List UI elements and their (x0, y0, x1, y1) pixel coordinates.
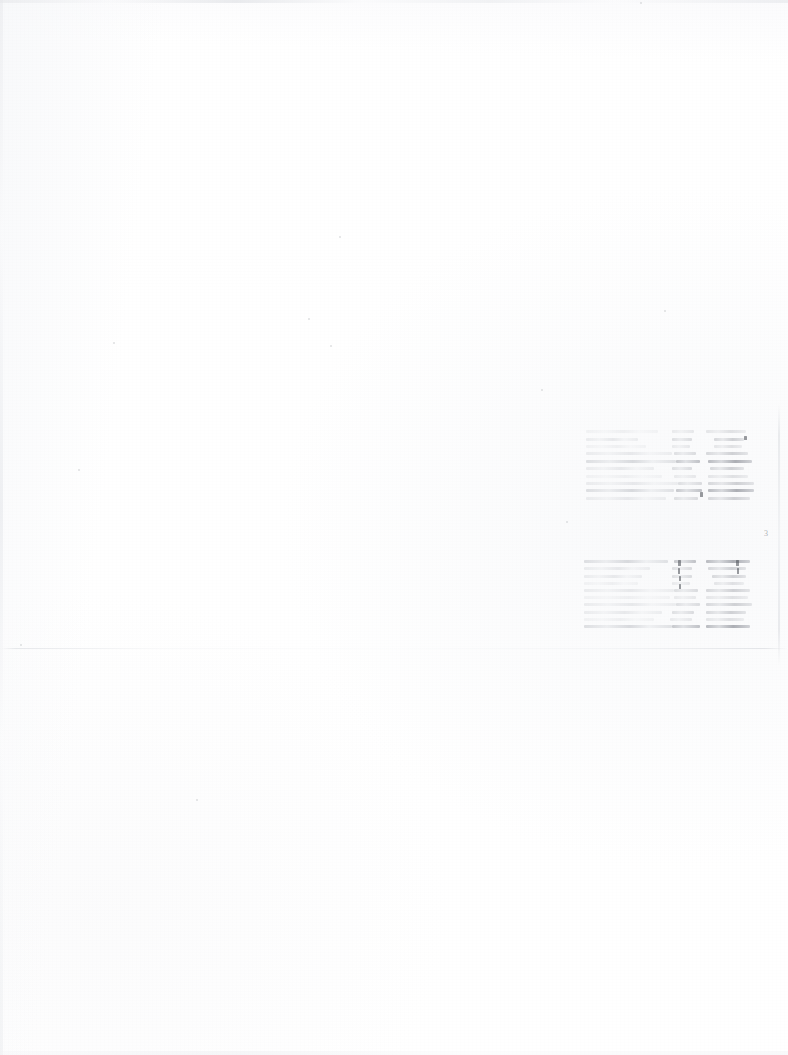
table-cell-label (584, 589, 674, 592)
scan-edge-bottom (0, 1051, 788, 1055)
table-cell-value-b (706, 611, 746, 614)
lower-faded-table (584, 558, 756, 630)
table-cell-value-b (706, 618, 744, 621)
table-cell-value-b (706, 560, 750, 563)
table-row (584, 616, 756, 623)
table-cell-value-b (708, 482, 754, 485)
table-cell-value-a (678, 482, 702, 485)
table-row (584, 558, 756, 565)
table-cell-label (584, 603, 676, 606)
table-cell-value-b (714, 582, 744, 585)
table-row (584, 565, 756, 572)
table-cell-value-a (676, 489, 702, 492)
table-row (584, 608, 756, 615)
table-cell-value-b (708, 567, 746, 570)
table-cell-label (584, 596, 670, 599)
paper-speck (196, 799, 198, 801)
table-cell-value-a (672, 438, 692, 441)
table-cell-value-a (674, 475, 696, 478)
table-row (586, 428, 756, 435)
table-cell-label (586, 438, 638, 441)
table-row (584, 623, 756, 630)
ink-fleck (678, 560, 681, 566)
table-row (586, 480, 756, 487)
table-cell-value-b (712, 575, 746, 578)
table-cell-value-a (676, 603, 700, 606)
table-row (586, 487, 756, 494)
scan-edge-right (778, 404, 780, 666)
table-cell-value-a (672, 567, 692, 570)
table-cell-label (586, 452, 672, 455)
page-number-mark: 3 (764, 530, 768, 538)
table-cell-label (584, 625, 672, 628)
table-cell-value-b (706, 625, 750, 628)
table-cell-value-b (708, 475, 748, 478)
upper-faded-table (586, 428, 756, 502)
table-cell-value-a (672, 582, 690, 585)
table-cell-value-a (672, 467, 692, 470)
ink-fleck (679, 584, 681, 589)
table-cell-label (586, 489, 674, 492)
paper-speck (78, 469, 80, 471)
table-cell-label (586, 460, 676, 463)
table-cell-value-a (672, 575, 692, 578)
paper-grain (0, 0, 788, 1055)
paper-speck (20, 644, 22, 646)
table-cell-value-a (672, 445, 690, 448)
table-cell-value-b (710, 467, 744, 470)
paper-speck (664, 310, 666, 312)
table-cell-value-b (706, 430, 746, 433)
table-cell-label (586, 445, 646, 448)
table-row (586, 495, 756, 502)
table-cell-label (586, 497, 666, 500)
table-row (586, 472, 756, 479)
table-cell-value-b (714, 445, 742, 448)
table-row (584, 587, 756, 594)
table-cell-value-a (674, 497, 698, 500)
table-cell-value-b (708, 497, 750, 500)
table-cell-label (584, 582, 638, 585)
table-cell-value-a (674, 452, 696, 455)
table-cell-value-a (670, 618, 692, 621)
paper-speck (541, 389, 543, 391)
table-cell-value-a (672, 430, 694, 433)
table-row (586, 450, 756, 457)
table-cell-value-a (672, 625, 700, 628)
table-row (586, 443, 756, 450)
table-row (584, 594, 756, 601)
table-cell-value-b (708, 460, 752, 463)
table-row (584, 580, 756, 587)
table-cell-value-a (676, 460, 700, 463)
table-row (586, 465, 756, 472)
table-cell-label (586, 467, 654, 470)
ink-fleck (744, 436, 747, 440)
ink-fleck (736, 560, 739, 566)
ink-fleck (737, 568, 739, 574)
ink-fleck (679, 576, 681, 581)
table-cell-label (584, 567, 650, 570)
ink-fleck (700, 492, 703, 497)
paper-speck (566, 521, 568, 523)
table-cell-value-b (706, 596, 748, 599)
table-row (584, 572, 756, 579)
scan-edge-left (0, 0, 3, 1055)
table-cell-label (584, 611, 662, 614)
table-cell-value-b (706, 589, 750, 592)
paper-speck (640, 2, 642, 4)
ink-fleck (678, 568, 680, 574)
horizontal-rule (0, 648, 788, 649)
table-cell-value-b (706, 603, 752, 606)
paper-speck (113, 342, 115, 344)
table-cell-label (584, 575, 642, 578)
table-cell-label (584, 560, 668, 563)
table-cell-label (586, 430, 658, 433)
paper-speck (308, 318, 310, 320)
table-cell-label (584, 618, 654, 621)
paper-speck (339, 236, 341, 238)
scan-edge-top (0, 0, 788, 3)
table-cell-value-a (674, 596, 696, 599)
table-cell-label (586, 475, 662, 478)
table-cell-value-b (708, 489, 754, 492)
table-cell-value-a (672, 611, 694, 614)
table-row (584, 601, 756, 608)
